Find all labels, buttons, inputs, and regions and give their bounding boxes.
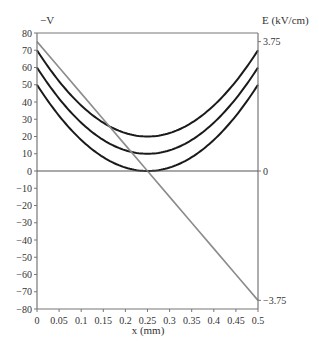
y-axis-label: −V [40, 14, 54, 26]
axes: 80706050403020100−10−20−30−40−50−60−70−8… [16, 28, 286, 327]
y-tick-label: 30 [22, 114, 32, 125]
x-tick-label: 0.15 [95, 315, 113, 326]
y-tick-label: −80 [16, 304, 32, 315]
x-tick-label: 0.35 [183, 315, 201, 326]
y2-tick-label: −3.75 [263, 295, 286, 306]
x-tick-label: 0.4 [208, 315, 221, 326]
y2-tick-label: 0 [263, 166, 268, 177]
x-axis-label: x (mm) [132, 324, 165, 337]
series-line-2 [37, 85, 258, 171]
x-tick-label: 0.5 [252, 315, 265, 326]
y-tick-label: 10 [22, 148, 32, 159]
x-tick-label: 0.45 [227, 315, 245, 326]
y-tick-label: −20 [16, 200, 32, 211]
y2-tick-label: 3.75 [263, 36, 281, 47]
y-tick-label: 80 [22, 28, 32, 39]
x-tick-label: 0.3 [163, 315, 176, 326]
y-tick-label: −10 [16, 183, 32, 194]
x-tick-label: 0 [35, 315, 40, 326]
y-tick-label: 40 [22, 97, 32, 108]
y-tick-label: 60 [22, 62, 32, 73]
y-tick-label: 50 [22, 79, 32, 90]
y-tick-label: −40 [16, 235, 32, 246]
y-tick-label: 20 [22, 131, 32, 142]
y-tick-label: −60 [16, 269, 32, 280]
chart: 80706050403020100−10−20−30−40−50−60−70−8… [0, 0, 319, 358]
y-tick-label: −70 [16, 286, 32, 297]
y-tick-label: −50 [16, 252, 32, 263]
x-tick-label: 0.2 [119, 315, 132, 326]
x-tick-label: 0.05 [50, 315, 68, 326]
y2-axis-label: E (kV/cm) [262, 14, 309, 27]
series-line-0 [37, 50, 258, 136]
x-tick-label: 0.1 [75, 315, 88, 326]
y-tick-label: −30 [16, 217, 32, 228]
y-tick-label: 0 [27, 166, 32, 177]
y-tick-label: 70 [22, 45, 32, 56]
